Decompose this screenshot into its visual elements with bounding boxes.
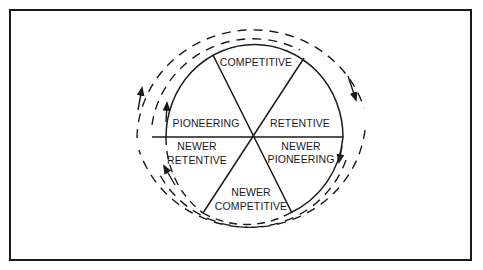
segment-label-newer-competitive: NEWERCOMPETITIVE (215, 186, 287, 212)
arrow-icon (166, 103, 167, 122)
segment-label-newer-pioneering: NEWERPIONEERING (268, 140, 335, 165)
segment-label-competitive: COMPETITIVE (220, 56, 292, 68)
arrow-icon (348, 76, 356, 100)
segment-label-newer-retentive: NEWERRETENTIVE (167, 140, 227, 166)
segment-label-pioneering: PIONEERING (173, 117, 240, 129)
arrow-icon (138, 88, 142, 110)
cycle-wheel-diagram: COMPETITIVE RETENTIVE NEWERPIONEERING NE… (0, 0, 483, 270)
arrow-icon (164, 166, 175, 185)
segment-label-retentive: RETENTIVE (270, 117, 330, 129)
